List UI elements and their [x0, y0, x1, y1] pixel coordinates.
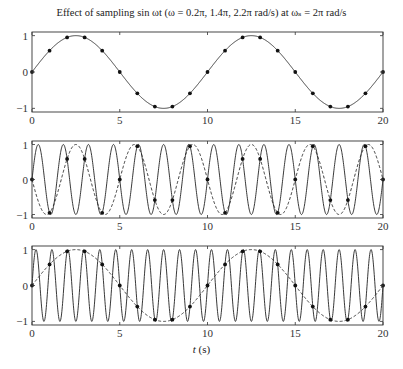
y-tick-label: 1	[23, 139, 29, 151]
x-tick-label: 10	[202, 114, 214, 126]
sample-point	[83, 157, 87, 161]
sample-point	[293, 70, 297, 74]
sample-point	[100, 262, 104, 266]
sample-point	[188, 305, 192, 309]
subplot-3: 05101520−101	[16, 244, 389, 339]
x-tick-label: 15	[290, 327, 302, 339]
sample-point	[153, 198, 157, 202]
y-tick-label: 0	[23, 280, 29, 292]
sample-point	[276, 262, 280, 266]
sample-point	[188, 144, 192, 148]
sample-point	[171, 318, 175, 322]
y-tick-label: 1	[23, 244, 29, 256]
x-axis-label-unit: (s)	[199, 343, 211, 355]
sample-point	[48, 49, 52, 53]
sample-point	[100, 49, 104, 53]
y-tick-label: −1	[16, 209, 28, 221]
sample-point	[223, 262, 227, 266]
plots-area: 05101520−10105101520−10105101520−101	[0, 0, 403, 369]
sample-point	[223, 49, 227, 53]
x-tick-label: 20	[378, 220, 390, 232]
x-tick-label: 10	[202, 327, 214, 339]
sample-point	[118, 284, 122, 288]
sample-point	[311, 144, 315, 148]
sample-point	[293, 178, 297, 182]
sample-point	[258, 36, 262, 40]
sample-point	[346, 318, 350, 322]
subplot-2: 05101520−101	[16, 139, 389, 233]
sample-point	[135, 144, 139, 148]
y-tick-label: 0	[23, 66, 29, 78]
sample-point	[258, 157, 262, 161]
x-tick-label: 0	[29, 220, 35, 232]
sample-point	[100, 211, 104, 215]
sample-point	[171, 198, 175, 202]
x-axis-label: t (s)	[0, 343, 403, 355]
sample-point	[346, 105, 350, 109]
sample-point	[171, 105, 175, 109]
sample-point	[65, 157, 69, 161]
sample-point	[48, 211, 52, 215]
sample-point	[118, 178, 122, 182]
sample-point	[48, 262, 52, 266]
sample-point	[293, 284, 297, 288]
sample-point	[153, 105, 157, 109]
sample-point	[65, 36, 69, 40]
y-tick-label: −1	[16, 102, 28, 114]
sample-point	[153, 318, 157, 322]
y-tick-label: 1	[23, 30, 29, 42]
sample-point	[135, 305, 139, 309]
x-tick-label: 20	[378, 114, 390, 126]
x-tick-label: 5	[117, 327, 123, 339]
sample-point	[206, 284, 210, 288]
x-tick-label: 10	[202, 220, 214, 232]
sample-point	[276, 211, 280, 215]
sample-point	[241, 157, 245, 161]
x-tick-label: 5	[117, 114, 123, 126]
x-tick-label: 15	[290, 114, 302, 126]
sample-point	[328, 318, 332, 322]
sample-point	[311, 305, 315, 309]
x-tick-label: 0	[29, 114, 35, 126]
sample-point	[188, 91, 192, 95]
sample-point	[241, 36, 245, 40]
sample-point	[83, 249, 87, 253]
x-tick-label: 5	[117, 220, 123, 232]
x-axis-label-var: t	[193, 343, 196, 355]
sample-point	[364, 91, 368, 95]
sample-point	[223, 211, 227, 215]
x-tick-label: 15	[290, 220, 302, 232]
sample-point	[258, 249, 262, 253]
sample-point	[311, 91, 315, 95]
sample-point	[364, 144, 368, 148]
sample-point	[346, 198, 350, 202]
y-tick-label: −1	[16, 315, 28, 327]
sample-point	[118, 70, 122, 74]
sample-point	[83, 36, 87, 40]
sample-point	[206, 70, 210, 74]
sample-point	[206, 178, 210, 182]
x-tick-label: 20	[378, 327, 390, 339]
subplot-1: 05101520−101	[16, 30, 389, 126]
sample-point	[241, 249, 245, 253]
sample-point	[364, 305, 368, 309]
sample-point	[276, 49, 280, 53]
sample-point	[328, 105, 332, 109]
x-tick-label: 0	[29, 327, 35, 339]
sample-point	[65, 249, 69, 253]
sample-point	[328, 198, 332, 202]
sample-point	[135, 91, 139, 95]
y-tick-label: 0	[23, 174, 29, 186]
